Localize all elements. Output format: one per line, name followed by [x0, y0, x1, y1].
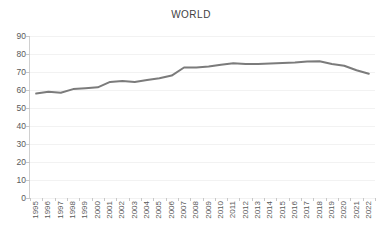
x-axis-label: 1998 — [69, 201, 77, 219]
x-axis-label: 2013 — [254, 201, 262, 219]
x-axis-label: 2008 — [192, 201, 200, 219]
x-axis-label: 2022 — [365, 201, 373, 219]
x-axis-label: 2001 — [106, 201, 114, 219]
x-axis-label: 1997 — [57, 201, 65, 219]
x-axis-label: 2007 — [180, 201, 188, 219]
x-axis-label: 2016 — [291, 201, 299, 219]
x-axis-label: 2012 — [242, 201, 250, 219]
x-axis-label: 2017 — [303, 201, 311, 219]
x-axis-label: 2015 — [279, 201, 287, 219]
x-axis-label: 1999 — [81, 201, 89, 219]
line-series-world — [36, 61, 369, 93]
x-axis-label: 2018 — [316, 201, 324, 219]
x-axis-label: 2009 — [205, 201, 213, 219]
x-axis-label: 2010 — [217, 201, 225, 219]
x-axis-label: 2005 — [155, 201, 163, 219]
x-axis-labels: 1995199619971998199920002001200220032004… — [30, 201, 375, 239]
x-axis-label: 2021 — [353, 201, 361, 219]
x-axis-label: 2011 — [229, 201, 237, 218]
x-axis-label: 2004 — [143, 201, 151, 219]
x-axis-label: 2003 — [131, 201, 139, 219]
x-axis-label: 2000 — [94, 201, 102, 219]
x-axis-label: 2019 — [328, 201, 336, 219]
x-axis-label: 2014 — [266, 201, 274, 219]
x-axis-label: 1995 — [32, 201, 40, 219]
chart-figure: WORLD 0102030405060708090 19951996199719… — [0, 0, 382, 239]
x-axis-label: 2020 — [340, 201, 348, 219]
x-axis-label: 2002 — [118, 201, 126, 219]
x-axis-label: 1996 — [44, 201, 52, 219]
x-axis-label: 2006 — [168, 201, 176, 219]
